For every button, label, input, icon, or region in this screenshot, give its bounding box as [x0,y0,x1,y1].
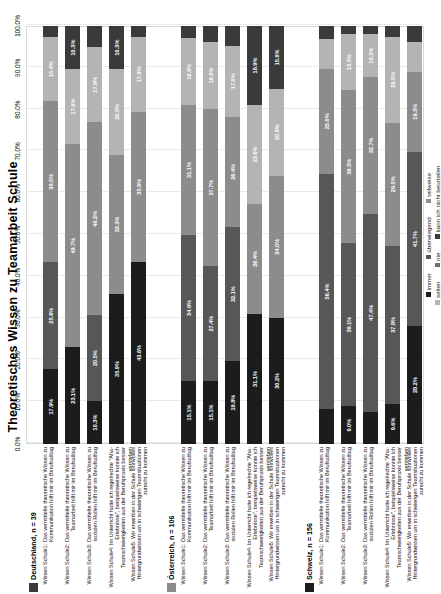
table-row[interactable]: 35.9%33.3%20.5%10.3% [109,26,124,444]
legend-row-2-item[interactable]: selten [433,282,441,305]
group-swatch-icon [305,583,314,592]
bar-segment-selten[interactable]: 17.9% [87,47,102,122]
bar-segment-selten[interactable]: 17.9% [131,37,146,112]
rotated-chart-canvas: Theoretisches Wissen zu Teamarbeit Schul… [0,0,441,594]
bar-segment-überwiegend[interactable]: 39.1% [341,243,356,406]
bar-segment-immer[interactable]: 9.0% [341,406,356,444]
bar-segment-selten[interactable]: 20.5% [385,37,400,123]
table-row[interactable]: 31.1%26.4%23.6%18.9% [247,26,262,444]
table-row[interactable]: 23.1%48.7%17.9%10.3% [65,26,80,444]
table-row[interactable]: 30.2%34.0%20.8%15.0% [269,26,284,444]
bar-segment-nie[interactable]: 10.3% [109,26,124,69]
x-axis-tick: 80.0% [14,101,21,119]
bar-segment-nie[interactable] [363,26,378,34]
bar-segment-teilweise[interactable]: 32.7% [363,77,378,214]
bar-segment-immer[interactable]: 30.2% [269,318,284,444]
bar-segment-überwiegend[interactable]: 37.8% [385,246,400,404]
bar-segment-selten[interactable] [407,42,422,72]
bar-segment-selten[interactable]: 20.5% [109,69,124,155]
bar-segment-selten[interactable]: 16.0% [181,38,196,105]
bar-segment-nie[interactable]: 18.9% [247,26,262,105]
legend-label: kann ich nicht beurteilen [434,166,441,233]
legend-row-1-item[interactable]: immer [424,273,432,297]
bar-segment-selten[interactable]: 10.3% [363,34,378,77]
bar-segment-immer[interactable]: 35.9% [109,294,124,444]
table-row[interactable]: 19.8%32.1%26.4%17.0% [225,26,240,444]
table-row[interactable]: 17.9%25.6%38.5%15.4% [43,26,58,444]
bar-segment-selten[interactable]: 17.0% [225,46,240,117]
bar-segment-teilweise[interactable]: 26.4% [247,204,262,314]
bar-segment-immer[interactable]: 43.6% [131,262,146,444]
bar-segment-teilweise[interactable]: 26.4% [225,117,240,227]
table-row[interactable]: 15.1%34.9%31.1%16.0% [181,26,196,444]
bar-segment-nie[interactable] [341,26,356,34]
bar-segment-nie[interactable]: 10.3% [65,26,80,69]
bar-segment-überwiegend[interactable]: 32.1% [225,227,240,361]
bar-segment-teilweise[interactable]: 19.2% [407,72,422,152]
bar-segment-immer[interactable] [319,409,334,444]
bar-segment-selten[interactable]: 23.6% [247,105,262,204]
bar-segment-teilweise[interactable]: 35.9% [131,112,146,262]
bar-segment-immer[interactable]: 31.1% [247,314,262,444]
bar-segment-überwiegend[interactable]: 20.5% [87,315,102,401]
bar-segment-selten[interactable]: 17.9% [65,69,80,144]
legend-row-2-item[interactable]: nie [433,253,441,268]
bar-segment-teilweise[interactable]: 29.5% [385,123,400,246]
bar-segment-überwiegend[interactable]: 27.4% [203,266,218,381]
bar-segment-nie[interactable] [87,26,102,47]
table-row[interactable]: 10.3%20.5%46.2%17.9% [87,26,102,444]
bar-segment-überwiegend[interactable]: 34.9% [181,235,196,381]
bar-segment-immer[interactable]: 28.2% [407,326,422,444]
bar-segment-immer[interactable] [363,412,378,444]
table-row[interactable]: 56.4%25.0% [319,26,334,444]
table-row[interactable]: 9.0%39.1%36.5%13.5% [341,26,356,444]
bar-segment-überwiegend[interactable]: 41.7% [407,152,422,326]
table-row[interactable]: 15.1%27.4%37.7%16.0% [203,26,218,444]
bar-segment-teilweise[interactable]: 48.7% [65,144,80,348]
bar-segment-selten[interactable]: 16.0% [203,42,218,109]
bar-segment-überwiegend[interactable]: 47.4% [363,214,378,412]
legend-row-2-item[interactable]: kann ich nicht beurteilen [433,166,441,239]
bar-segment-teilweise[interactable]: 36.5% [341,90,356,243]
bar-segment-immer[interactable]: 19.8% [225,361,240,444]
bar-segment-teilweise[interactable]: 38.5% [43,101,58,262]
category-label: Wissen Schule1: Das vermittelte theoreti… [42,447,55,589]
x-axis-tick: 100.0% [14,15,21,37]
bar-segment-teilweise[interactable]: 25.0% [319,69,334,174]
bar-segment-teilweise[interactable]: 34.0% [269,176,284,318]
bar-segment-selten[interactable]: 20.8% [269,89,284,176]
bar-segment-nie[interactable] [225,26,240,46]
x-axis-tick: 20.0% [14,351,21,369]
table-row[interactable]: 43.6%35.9%17.9% [131,26,146,444]
bar-segment-immer[interactable]: 9.6% [385,404,400,444]
bar-segment-immer[interactable]: 23.1% [65,347,80,444]
bar-segment-immer[interactable]: 15.1% [181,381,196,444]
bar-segment-immer[interactable]: 15.1% [203,381,218,444]
bar-segment-immer[interactable]: 10.3% [87,401,102,444]
bar-segment-teilweise[interactable]: 33.3% [109,155,124,294]
bar-segment-nie[interactable] [203,26,218,42]
bar-segment-selten[interactable] [319,39,334,69]
legend-label: selten [434,282,441,299]
legend-row-1-item[interactable]: teilweise [424,173,432,203]
bar-segment-teilweise[interactable]: 37.7% [203,109,218,267]
bar-segment-teilweise[interactable]: 46.2% [87,122,102,315]
table-row[interactable]: 9.6%37.8%29.5%20.5% [385,26,400,444]
bar-segment-nie[interactable] [131,26,146,37]
table-row[interactable]: 47.4%32.7%10.3% [363,26,378,444]
table-row[interactable]: 28.2%41.7%19.2% [407,26,422,444]
bar-segment-selten[interactable]: 15.4% [43,37,58,101]
bar-segment-nie[interactable] [319,26,334,39]
bar-segment-nie[interactable] [385,26,400,37]
legend-row-1-item[interactable]: überwiegend [424,217,432,259]
bar-segment-nie[interactable]: 15.0% [269,26,284,89]
bar-segment-überwiegend[interactable]: 56.4% [319,174,334,410]
bar-segment-selten[interactable]: 13.5% [341,34,356,90]
bar-segment-überwiegend[interactable]: 25.6% [43,262,58,369]
bar-segment-teilweise[interactable]: 31.1% [181,105,196,235]
bar-segment-nie[interactable] [407,26,422,42]
category-label: Wissen Schule2: Das vermittelte theoreti… [340,447,353,589]
bar-segment-immer[interactable]: 17.9% [43,369,58,444]
bar-segment-nie[interactable] [43,26,58,37]
bar-segment-nie[interactable] [181,26,196,38]
